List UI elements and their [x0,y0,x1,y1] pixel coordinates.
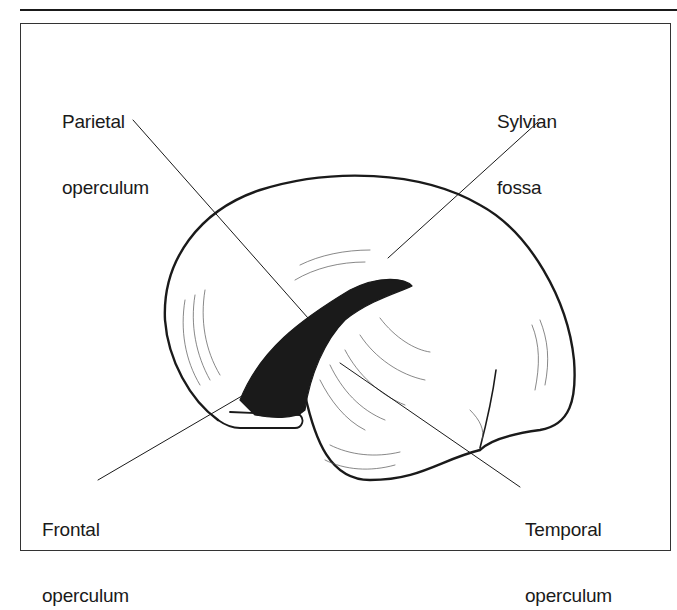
label-parietal-operculum: Parietal operculum [62,67,149,221]
label-temporal-operculum: Temporal operculum [525,475,612,610]
leader-parietal [133,120,308,318]
sylvian-fissure [240,279,412,417]
label-sylvian-fossa: Sylvian fossa [497,67,557,221]
leader-frontal [98,393,247,480]
label-frontal-operculum: Frontal operculum [42,475,129,610]
